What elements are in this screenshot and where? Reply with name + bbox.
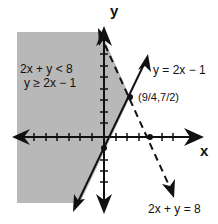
- inequality-graph: [0, 0, 218, 224]
- region-inequality-2: y ≥ 2x − 1: [24, 76, 76, 90]
- line-arrow-up-icon: [138, 54, 151, 72]
- region-inequality-1: 2x + y < 8: [20, 62, 73, 76]
- shaded-solution-region: [17, 32, 130, 203]
- x-intercept-point: [147, 134, 153, 140]
- y-axis-label: y: [110, 2, 118, 19]
- y-intercept-point: [101, 145, 107, 151]
- intersection-point-label: (9/4,7/2): [138, 91, 179, 103]
- dashed-line-arrow-down-icon: [162, 179, 175, 198]
- solid-line-equation-label: y = 2x − 1: [153, 63, 206, 77]
- dashed-line-equation-label: 2x + y = 8: [148, 202, 201, 216]
- intersection-point: [127, 94, 133, 100]
- x-axis-label: x: [200, 142, 208, 159]
